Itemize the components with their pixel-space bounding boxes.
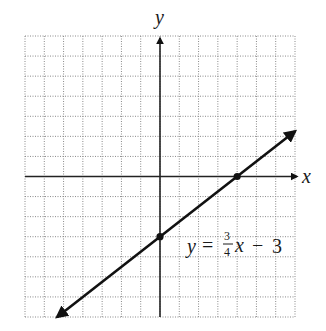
data-line	[57, 131, 295, 317]
eq-equals: =	[202, 234, 213, 256]
eq-constant: 3	[272, 235, 282, 257]
equation-label: y = 3 4 x − 3	[185, 229, 282, 259]
series-line	[57, 131, 295, 317]
eq-y: y	[185, 235, 196, 258]
eq-denominator: 4	[224, 245, 230, 259]
eq-minus: −	[252, 234, 263, 256]
intercept-point	[156, 233, 163, 240]
axes	[25, 38, 297, 317]
eq-x: x	[234, 234, 244, 256]
line-graph: y x y = 3 4 x − 3	[0, 0, 326, 331]
x-axis-label: x	[301, 165, 311, 187]
y-axis-label: y	[153, 6, 164, 29]
intercept-point	[234, 173, 241, 180]
eq-numerator: 3	[224, 229, 230, 243]
